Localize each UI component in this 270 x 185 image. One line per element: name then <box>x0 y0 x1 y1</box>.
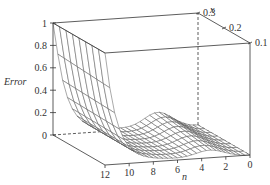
z-tick-label: 0.4 <box>35 85 48 96</box>
z-axis-label: Error <box>3 76 27 87</box>
z-tick-label: 0 <box>42 130 47 141</box>
x-tick-label: 0.2 <box>229 22 242 33</box>
z-tick-label: 0.2 <box>35 107 48 118</box>
n-tick-label: 6 <box>175 164 180 175</box>
n-tick-label: 8 <box>151 166 156 177</box>
n-tick-label: 4 <box>199 162 204 173</box>
z-tick-label: 0.6 <box>35 62 48 73</box>
z-tick-label: 1 <box>42 18 47 29</box>
n-axis-label: n <box>182 171 187 182</box>
wireframe-surface <box>53 23 250 158</box>
top-back-edge <box>53 13 198 23</box>
x-tick-label: 0.1 <box>255 37 268 48</box>
x-axis-label: x <box>209 4 215 15</box>
left-bottom-edge <box>53 135 105 165</box>
n-tick-label: 10 <box>124 167 134 178</box>
n-tick-label: 12 <box>100 169 110 180</box>
top-front-edge <box>105 43 250 53</box>
n-tick-label: 2 <box>223 161 228 172</box>
z-tick-label: 0.8 <box>35 40 48 51</box>
surface-plot: 00.20.40.60.811210864200.30.20.1 Error x… <box>0 0 270 185</box>
n-tick-label: 0 <box>248 159 253 170</box>
